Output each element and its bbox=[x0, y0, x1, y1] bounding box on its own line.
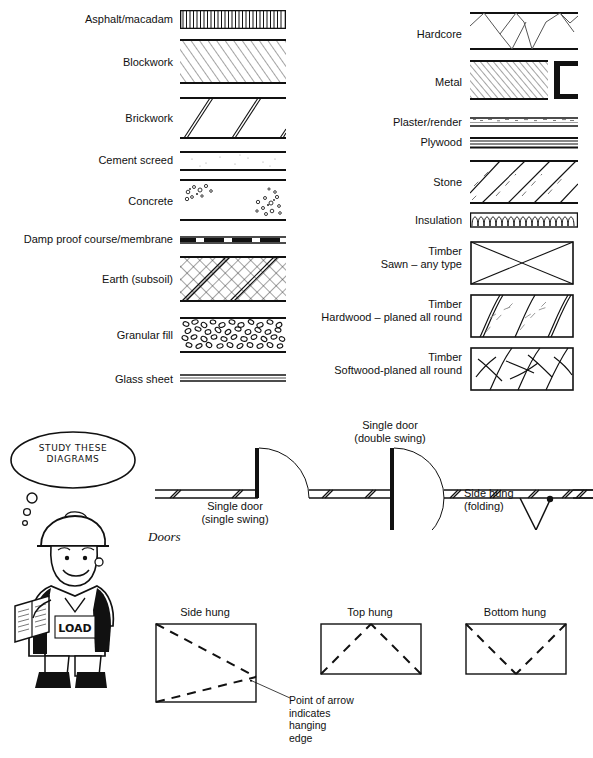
material-label-cement-screed: Cement screed bbox=[10, 154, 173, 167]
symbols-sheet: Asphalt/macadam Blockwork Brickwork Ceme… bbox=[0, 0, 593, 758]
material-label-concrete: Concrete bbox=[10, 195, 173, 208]
material-swatch-glass-sheet bbox=[180, 373, 286, 383]
material-swatch-stone bbox=[470, 158, 578, 206]
material-label-plaster-render: Plaster/render bbox=[330, 116, 462, 129]
material-swatch-dpc bbox=[180, 235, 286, 245]
window-label-top-hung: Top hung bbox=[320, 606, 420, 619]
material-label-timber-hardwood: Timber Hardwood – planed all round bbox=[290, 298, 462, 324]
material-swatch-insulation bbox=[470, 212, 578, 228]
window-diagram-bottom-hung bbox=[465, 623, 567, 675]
material-swatch-plywood bbox=[470, 136, 578, 150]
material-label-metal: Metal bbox=[330, 76, 462, 89]
material-label-dpc: Damp proof course/membrane bbox=[2, 233, 173, 246]
material-label-plywood: Plywood bbox=[330, 136, 462, 149]
material-swatch-asphalt bbox=[180, 10, 286, 29]
material-swatch-blockwork bbox=[180, 38, 286, 85]
material-label-earth: Earth (subsoil) bbox=[10, 273, 173, 286]
window-label-bottom-hung: Bottom hung bbox=[465, 606, 565, 619]
window-note-leader-line bbox=[250, 680, 294, 702]
doors-section-caption: Doors bbox=[148, 529, 181, 545]
material-label-insulation: Insulation bbox=[330, 214, 462, 227]
speech-bubble-text: STUDY THESE DIAGRAMS bbox=[22, 443, 124, 465]
material-swatch-timber-hardwood bbox=[470, 294, 574, 338]
window-diagram-top-hung bbox=[320, 623, 422, 675]
material-swatch-plaster-render bbox=[470, 116, 578, 128]
material-swatch-timber-sawn bbox=[470, 241, 574, 285]
material-label-brickwork: Brickwork bbox=[10, 112, 173, 125]
material-swatch-timber-softwood bbox=[470, 347, 574, 391]
window-label-side-hung: Side hung bbox=[155, 606, 255, 619]
material-swatch-granular-fill bbox=[180, 316, 286, 354]
material-label-blockwork: Blockwork bbox=[10, 56, 173, 69]
material-label-asphalt: Asphalt/macadam bbox=[10, 13, 173, 26]
material-label-granular-fill: Granular fill bbox=[10, 329, 173, 342]
material-swatch-brickwork bbox=[180, 96, 286, 140]
material-label-stone: Stone bbox=[330, 176, 462, 189]
material-label-glass-sheet: Glass sheet bbox=[10, 373, 173, 386]
material-label-timber-sawn: Timber Sawn – any type bbox=[320, 245, 462, 271]
window-hanging-edge-note: Point of arrow indicates hanging edge bbox=[289, 694, 409, 744]
window-diagram-side-hung bbox=[155, 623, 257, 703]
material-swatch-earth bbox=[180, 254, 286, 304]
material-swatch-concrete bbox=[180, 178, 286, 222]
door-label-single-swing: Single door (single swing) bbox=[180, 500, 290, 526]
svg-text:LOAD: LOAD bbox=[58, 622, 91, 635]
door-label-double-swing: Single door (double swing) bbox=[330, 419, 450, 445]
material-label-timber-softwood: Timber Softwood-planed all round bbox=[290, 351, 462, 377]
material-swatch-cement-screed bbox=[180, 150, 286, 172]
material-label-hardcore: Hardcore bbox=[330, 28, 462, 41]
door-label-side-hung-folding: Side hung (folding) bbox=[464, 487, 574, 513]
material-swatch-hardcore bbox=[470, 10, 578, 52]
material-swatch-metal bbox=[470, 58, 578, 102]
